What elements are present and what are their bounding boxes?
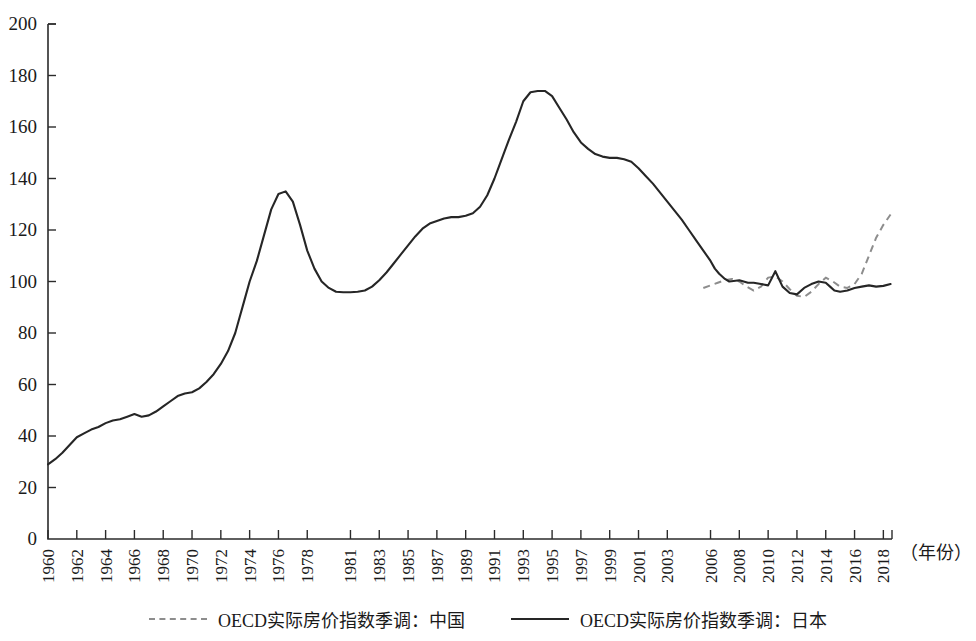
x-axis-tick-label: 2016 [846, 549, 865, 583]
y-axis-tick-label: 40 [18, 425, 37, 446]
x-axis-tick-label: 1981 [341, 549, 360, 583]
series-line-china [703, 215, 890, 297]
x-axis-tick-label: 1968 [154, 549, 173, 583]
legend-label-china: OECD实际房价指数季调：中国 [218, 606, 465, 632]
y-axis-tick-label: 120 [9, 219, 38, 240]
x-axis-tick-label: 1997 [572, 549, 591, 584]
y-axis-tick-label: 180 [9, 65, 38, 86]
solid-line-swatch-icon [511, 618, 569, 620]
x-axis-tick-label: 2006 [702, 549, 721, 583]
x-axis-tick-label: 1995 [543, 549, 562, 583]
x-axis-tick-label: 2001 [630, 549, 649, 583]
y-axis-tick-label: 0 [28, 528, 38, 549]
y-axis-tick-label: 80 [18, 322, 37, 343]
x-axis-tick-label: 2008 [730, 549, 749, 583]
legend-label-japan: OECD实际房价指数季调：日本 [580, 606, 827, 632]
legend-item-china: OECD实际房价指数季调：中国 [149, 606, 465, 632]
y-axis-tick-label: 160 [9, 116, 38, 137]
y-axis-tick-label: 60 [18, 374, 37, 395]
x-axis-tick-label: 1960 [39, 549, 58, 583]
y-axis-tick-label: 20 [18, 477, 37, 498]
y-axis-tick-label: 100 [9, 271, 38, 292]
chart-legend: OECD实际房价指数季调：中国 OECD实际房价指数季调：日本 [0, 606, 976, 632]
series-line-japan [48, 91, 891, 464]
x-axis-tick-label: 1970 [183, 549, 202, 583]
line-chart-plot: 0204060801001201401601802001960196219641… [0, 0, 976, 641]
y-axis-tick-label: 140 [9, 168, 38, 189]
x-axis-tick-label: 1966 [125, 549, 144, 583]
x-axis-tick-label: 1991 [485, 549, 504, 583]
x-axis-unit-label: （年份） [900, 538, 972, 564]
x-axis-tick-label: 2003 [658, 549, 677, 583]
x-axis-tick-label: 1999 [601, 549, 620, 583]
x-axis-tick-label: 2012 [788, 549, 807, 583]
x-axis-tick-label: 1985 [399, 549, 418, 583]
x-axis-tick-label: 1978 [298, 549, 317, 583]
x-axis-tick-label: 1976 [269, 549, 288, 583]
x-axis-tick-label: 1989 [457, 549, 476, 583]
x-axis-tick-label: 1972 [212, 549, 231, 583]
x-axis-tick-label: 1962 [68, 549, 87, 583]
chart-axes [48, 24, 892, 539]
chart-container: 0204060801001201401601802001960196219641… [0, 0, 976, 641]
x-axis-tick-label: 1983 [370, 549, 389, 583]
dashed-line-swatch-icon [149, 618, 207, 620]
x-axis-tick-label: 2010 [759, 549, 778, 583]
x-axis-tick-label: 1987 [428, 549, 447, 584]
x-axis-tick-label: 2018 [874, 549, 893, 583]
x-axis-tick-label: 1993 [514, 549, 533, 583]
x-axis-tick-label: 1964 [97, 549, 116, 584]
legend-item-japan: OECD实际房价指数季调：日本 [511, 606, 827, 632]
x-axis-tick-label: 2014 [817, 549, 836, 584]
y-axis-tick-label: 200 [9, 13, 38, 34]
x-axis-tick-label: 1974 [241, 549, 260, 584]
